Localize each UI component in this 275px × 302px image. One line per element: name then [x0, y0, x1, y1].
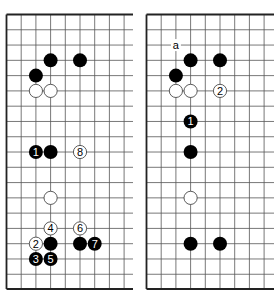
black-stone-disc: [184, 53, 198, 67]
black-stone-disc: [44, 53, 58, 67]
black-stone: [73, 237, 87, 251]
white-stone: [44, 191, 57, 204]
black-stone-disc: [213, 53, 227, 67]
black-stone: [184, 237, 198, 251]
move-number-label: 4: [48, 222, 54, 234]
move-number-label: 1: [188, 115, 194, 127]
black-stone-disc: [184, 237, 198, 251]
black-stone-disc: [184, 145, 198, 159]
black-stone: 1: [29, 145, 43, 159]
white-stone: [169, 84, 182, 97]
black-stone: [184, 145, 198, 159]
white-stone-disc: [29, 84, 42, 97]
white-stone-disc: [184, 84, 197, 97]
black-stone: 7: [88, 237, 102, 251]
move-number-label: 5: [48, 253, 54, 265]
point-marker-label: a: [173, 39, 180, 51]
black-stone-disc: [73, 237, 87, 251]
white-stone-disc: [169, 84, 182, 97]
grid-lines: [7, 15, 134, 290]
move-number-label: 1: [33, 146, 39, 158]
black-stone: [169, 69, 183, 83]
white-stone: 4: [44, 222, 57, 235]
black-stone: [44, 53, 58, 67]
black-stone-disc: [73, 53, 87, 67]
white-stone: 6: [73, 222, 86, 235]
black-stone: [44, 237, 58, 251]
black-stone: [213, 53, 227, 67]
move-number-label: 3: [33, 253, 39, 265]
black-stone: [213, 237, 227, 251]
white-stone: [184, 84, 197, 97]
white-stone: [29, 84, 42, 97]
black-stone: [73, 53, 87, 67]
black-stone: [44, 145, 58, 159]
black-stone-disc: [213, 237, 227, 251]
black-stone: [29, 69, 43, 83]
move-number-label: 2: [217, 85, 223, 97]
right-go-board: a21: [147, 15, 275, 290]
black-stone-disc: [44, 237, 58, 251]
white-stone: [184, 191, 197, 204]
move-number-label: 6: [77, 222, 83, 234]
move-number-label: 2: [33, 238, 39, 250]
go-diagrams: 18462735 a21: [0, 0, 275, 302]
left-go-board: 18462735: [7, 15, 134, 290]
grid-lines: [147, 15, 275, 290]
black-stone: 3: [29, 252, 43, 266]
white-stone: 2: [29, 237, 42, 250]
black-stone: 1: [184, 114, 198, 128]
white-stone: 8: [73, 145, 86, 158]
black-stone: 5: [44, 252, 58, 266]
black-stone-disc: [169, 69, 183, 83]
white-stone-disc: [184, 191, 197, 204]
white-stone-disc: [44, 84, 57, 97]
white-stone: 2: [213, 84, 226, 97]
black-stone-disc: [29, 69, 43, 83]
move-number-label: 8: [77, 146, 83, 158]
white-stone-disc: [44, 191, 57, 204]
black-stone-disc: [44, 145, 58, 159]
white-stone: [44, 84, 57, 97]
black-stone: [184, 53, 198, 67]
move-number-label: 7: [92, 238, 98, 250]
